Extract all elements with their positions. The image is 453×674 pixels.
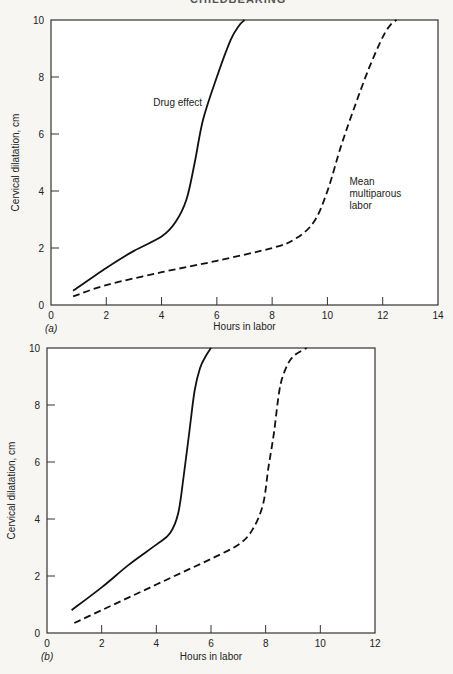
x-tick-label: 0 xyxy=(48,310,54,321)
x-tick-label: 10 xyxy=(315,638,327,649)
x-tick-label: 14 xyxy=(432,310,444,321)
chart-panel-a: 024681012140246810Hours in laborCervical… xyxy=(10,15,444,335)
plot-frame xyxy=(47,348,375,633)
x-tick-label: 8 xyxy=(263,638,269,649)
y-tick-label: 10 xyxy=(29,343,41,354)
y-tick-label: 8 xyxy=(34,400,40,411)
y-tick-label: 2 xyxy=(38,243,44,254)
series-annotation: Mean xyxy=(350,176,375,187)
y-axis-label: Cervical dilatation, cm xyxy=(6,442,17,540)
chart-panel-b: 0246810120246810Hours in laborCervical d… xyxy=(6,343,381,663)
x-tick-label: 2 xyxy=(99,638,105,649)
y-tick-label: 2 xyxy=(34,571,40,582)
x-tick-label: 4 xyxy=(159,310,165,321)
panel-label: (b) xyxy=(41,651,53,662)
series-annotation: multiparous xyxy=(350,188,402,199)
y-tick-label: 4 xyxy=(34,514,40,525)
y-tick-label: 6 xyxy=(34,457,40,468)
x-tick-label: 6 xyxy=(208,638,214,649)
series-annotation: labor xyxy=(350,200,373,211)
y-tick-label: 4 xyxy=(38,186,44,197)
x-tick-label: 2 xyxy=(104,310,110,321)
y-tick-label: 0 xyxy=(38,300,44,311)
x-tick-label: 10 xyxy=(322,310,334,321)
x-tick-label: 0 xyxy=(44,638,50,649)
x-tick-label: 6 xyxy=(214,310,220,321)
x-tick-label: 12 xyxy=(377,310,389,321)
y-tick-label: 6 xyxy=(38,129,44,140)
panel-label: (a) xyxy=(45,323,57,334)
x-tick-label: 4 xyxy=(154,638,160,649)
y-tick-label: 10 xyxy=(33,15,45,26)
figure: 024681012140246810Hours in laborCervical… xyxy=(0,0,453,674)
y-axis-label: Cervical dilatation, cm xyxy=(10,114,21,212)
x-axis-label: Hours in labor xyxy=(180,651,243,662)
plot-frame xyxy=(51,20,438,305)
x-tick-label: 12 xyxy=(369,638,381,649)
series-annotation: Drug effect xyxy=(153,97,202,108)
y-tick-label: 8 xyxy=(38,72,44,83)
x-tick-label: 8 xyxy=(269,310,275,321)
y-tick-label: 0 xyxy=(34,628,40,639)
x-axis-label: Hours in labor xyxy=(213,321,276,332)
